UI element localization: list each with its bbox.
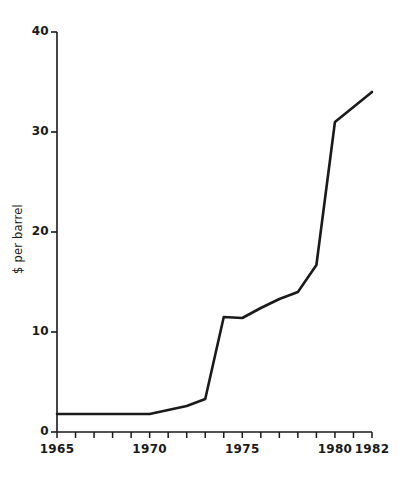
x-tick-marks [57,432,372,438]
y-tick-label: 40 [15,24,49,38]
y-tick-marks [51,32,57,432]
plot-area [0,0,405,477]
x-tick-label: 1965 [29,442,85,456]
oil-price-line-chart: $ per barrel 010203040 19651970197519801… [0,0,405,477]
x-tick-label: 1982 [344,442,400,456]
y-tick-label: 0 [15,424,49,438]
data-series-group [57,92,372,414]
y-tick-label: 30 [15,124,49,138]
y-axis-label: $ per barrel [11,169,25,309]
x-tick-label: 1970 [122,442,178,456]
x-tick-label: 1975 [214,442,270,456]
y-tick-label: 10 [15,324,49,338]
data-line [57,92,372,414]
y-tick-label: 20 [15,224,49,238]
axis-lines [57,32,372,432]
